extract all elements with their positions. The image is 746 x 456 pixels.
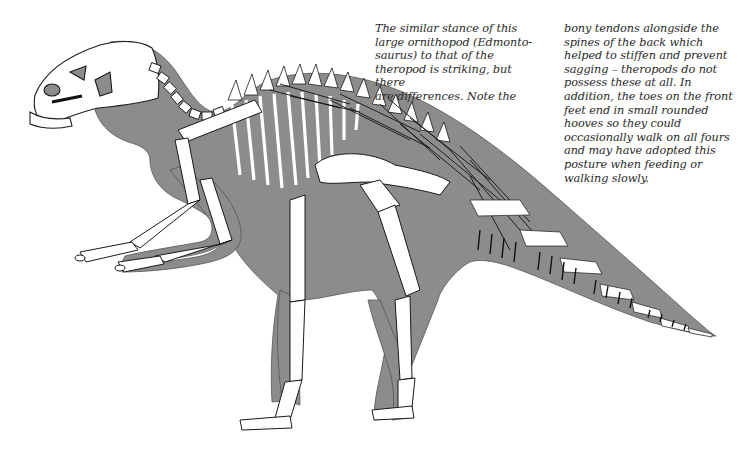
tibia: [290, 300, 305, 382]
left-hind-foot: [240, 416, 292, 430]
front-hoof-right: [115, 265, 125, 271]
front-hoof-left: [75, 255, 85, 261]
caption-right: bony tendons alongside the spines of the…: [564, 22, 746, 185]
caption-left: The similar stance of this large ornitho…: [375, 22, 545, 104]
femur: [290, 195, 305, 302]
